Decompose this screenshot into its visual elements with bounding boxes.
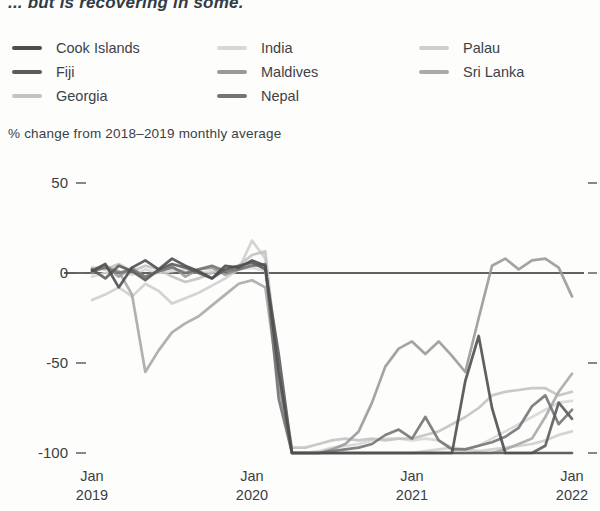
x-tick-label-month: Jan: [80, 468, 103, 484]
x-tick-label-month: Jan: [240, 468, 263, 484]
y-tick-label: 50: [51, 174, 68, 191]
y-tick-label: 0: [60, 264, 68, 281]
series-line-cook-islands: [92, 259, 572, 453]
y-tick-label: -50: [46, 354, 68, 371]
series-line-sri-lanka: [92, 266, 572, 453]
series-line-georgia: [92, 251, 572, 447]
x-tick-label-year: 2020: [236, 487, 268, 503]
x-tick-label-month: Jan: [400, 468, 423, 484]
chart-svg: 500-50-100Jan2019Jan2020Jan2021Jan2022: [0, 0, 600, 511]
x-tick-label-year: 2021: [396, 487, 428, 503]
x-tick-label-year: 2019: [76, 487, 108, 503]
series-line-nepal: [92, 264, 572, 453]
y-tick-label: -100: [38, 444, 68, 461]
series-line-fiji: [92, 262, 572, 453]
x-tick-label-month: Jan: [560, 468, 583, 484]
x-tick-label-year: 2022: [556, 487, 588, 503]
series-line-maldives: [92, 259, 572, 453]
